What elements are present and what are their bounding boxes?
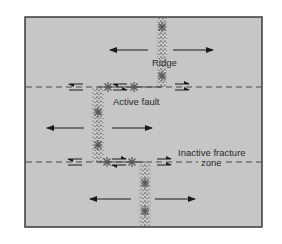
earthquake-icon (158, 22, 166, 32)
earthquake-icon (158, 71, 166, 81)
ridge-label: Ridge (152, 57, 177, 68)
earthquake-icon (94, 107, 102, 117)
earthquake-icon (94, 140, 102, 150)
transform-fault-diagram: Ridge Active fault Inactive fracture zon… (0, 0, 282, 244)
middle-ridge (92, 88, 104, 162)
inactive-fracture-zone-label-line2: zone (201, 157, 222, 168)
earthquake-icon (130, 82, 138, 92)
active-fault-label: Active fault (113, 96, 160, 107)
earthquake-icon (128, 157, 136, 167)
lower-ridge (139, 163, 151, 226)
earthquake-icon (103, 157, 111, 167)
earthquake-icon (141, 178, 149, 188)
earthquake-icon (104, 82, 112, 92)
earthquake-icon (141, 206, 149, 216)
